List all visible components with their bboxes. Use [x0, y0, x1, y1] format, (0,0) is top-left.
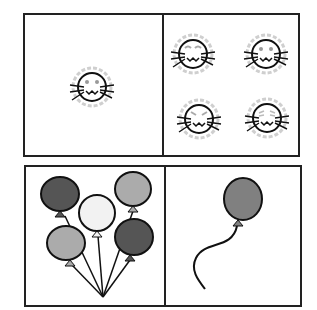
- panel-many-balloons: [25, 166, 165, 306]
- panel-one-balloon: [165, 166, 301, 306]
- panel-one-cat: [24, 14, 163, 156]
- illustration: [0, 0, 317, 310]
- panel-many-cats: [163, 14, 299, 156]
